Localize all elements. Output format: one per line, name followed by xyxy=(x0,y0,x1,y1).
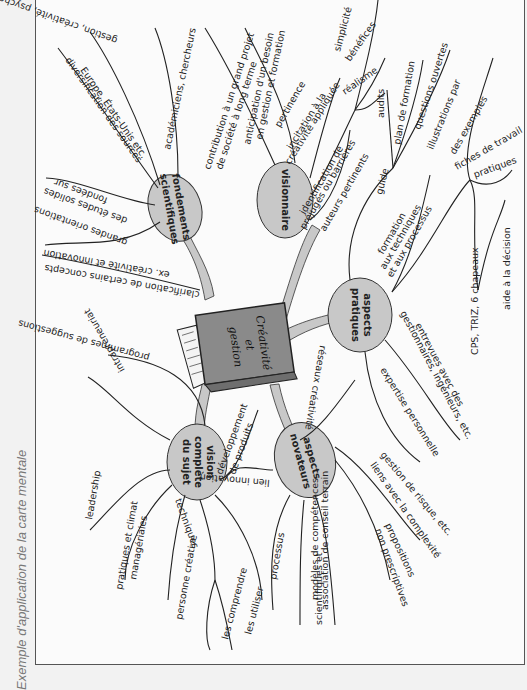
label-psychologie: gestion, créativité, psychologie, etc. xyxy=(0,0,119,46)
label-audits: audits xyxy=(375,89,386,118)
node-pratiques-label: aspects xyxy=(362,293,373,336)
node-pratiques-label-2: pratiques xyxy=(350,288,361,342)
label-les-utiliser: les utiliser xyxy=(242,585,265,635)
label-expertise: expertise personnelle xyxy=(378,365,442,458)
label-entrevues: entrevues avec des xyxy=(413,321,466,408)
node-vision-label-3: du sujet xyxy=(181,439,192,485)
label-leadership: leadership xyxy=(83,469,102,520)
label-cps-triz: CPS, TRIZ, 6 chapeaux xyxy=(469,247,480,355)
mind-map: Créativité et gestion fondements scienti… xyxy=(0,0,527,690)
label-modeles: modèles de compétences xyxy=(309,478,320,600)
node-visionnaire-label: visionnaire xyxy=(280,169,291,232)
label-academiciens: académiciens, chercheurs xyxy=(161,27,198,151)
label-programmes-suggestions: programmes de suggestions xyxy=(17,318,151,364)
label-guide: guide xyxy=(373,167,391,196)
label-processus-vision: processus xyxy=(267,532,286,581)
label-aide-decision: aide à la décision xyxy=(501,227,512,310)
label-diversification: diversification des sources xyxy=(63,55,144,165)
